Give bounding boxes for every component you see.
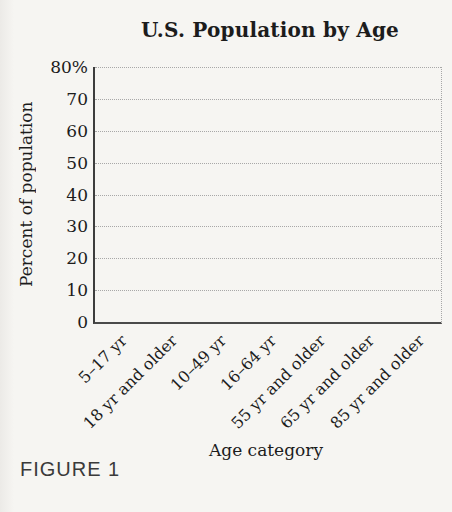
gridline xyxy=(95,99,441,100)
y-tick-label: 0 xyxy=(77,312,88,332)
gridline xyxy=(95,195,441,196)
x-category-label: 85 yr and older xyxy=(326,331,427,432)
gridline xyxy=(95,67,441,68)
y-tick-label: 60 xyxy=(66,121,88,141)
figure-caption: FIGURE 1 xyxy=(20,458,120,481)
y-tick-label: 10 xyxy=(66,280,88,300)
gridline xyxy=(95,131,441,132)
plot-area xyxy=(93,67,442,324)
x-axis-label: Age category xyxy=(93,440,439,460)
y-tick-label: 50 xyxy=(66,153,88,173)
y-tick-label: 40 xyxy=(66,185,88,205)
gridline xyxy=(95,258,441,259)
y-tick-label: 30 xyxy=(66,216,88,236)
x-category-label: 18 yr and older xyxy=(79,331,180,432)
chart-title: U.S. Population by Age xyxy=(93,18,447,42)
y-tick-label: 80% xyxy=(50,57,88,77)
gridline xyxy=(95,163,441,164)
textbook-page: U.S. Population by Age Percent of popula… xyxy=(0,0,452,512)
y-tick-label: 20 xyxy=(66,248,88,268)
gridline xyxy=(95,226,441,227)
y-axis-label: Percent of population xyxy=(16,67,36,322)
y-tick-label: 70 xyxy=(66,89,88,109)
gridline xyxy=(95,290,441,291)
